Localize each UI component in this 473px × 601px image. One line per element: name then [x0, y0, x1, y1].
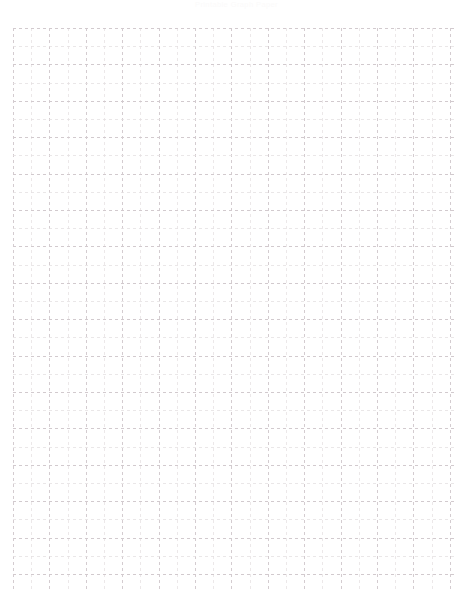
grid-lines-layer	[13, 28, 455, 590]
graph-paper-page: Printable Graph Paper	[0, 0, 473, 601]
header-title: Printable Graph Paper	[0, 0, 473, 9]
grid-area	[13, 28, 455, 590]
grid-svg	[13, 28, 455, 590]
